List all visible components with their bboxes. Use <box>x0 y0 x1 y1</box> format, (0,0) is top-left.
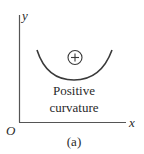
curvature-label-line-1: Positive <box>0 84 144 97</box>
figure-caption: (a) <box>0 135 144 148</box>
curvature-label-line-2: curvature <box>0 101 144 114</box>
y-axis-label: y <box>22 9 28 22</box>
x-axis-label: x <box>129 116 135 129</box>
diagram-canvas <box>0 0 144 154</box>
positive-curvature-figure: y x O Positive curvature (a) <box>0 0 144 154</box>
circled-plus-icon <box>68 51 82 65</box>
